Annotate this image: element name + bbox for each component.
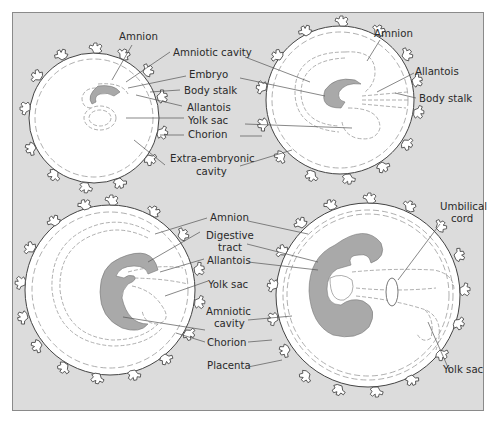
stage-4-sac	[266, 193, 470, 397]
label-embryo: Embryo	[189, 69, 228, 80]
label-amnion: Amnion	[210, 212, 249, 223]
label-digestive-tract-2: tract	[218, 242, 242, 253]
stage-3-labels: Amnion Digestive tract Allantois Yolk sa…	[206, 212, 254, 371]
label-allantois: Allantois	[207, 255, 251, 266]
label-amnion: Amnion	[119, 31, 158, 42]
embryo-development-diagram: Amnion Amniotic cavity Embryo Body stalk…	[0, 0, 496, 424]
label-extra-embryonic-cavity: cavity	[196, 166, 227, 177]
stage-2-sac	[255, 16, 424, 185]
label-umbilical-cord-2: cord	[451, 213, 473, 224]
label-placenta: Placenta	[207, 360, 251, 371]
label-yolk-sac: Yolk sac	[207, 279, 248, 290]
label-digestive-tract: Digestive	[206, 230, 254, 241]
label-amniotic-cavity-2: cavity	[214, 318, 245, 329]
umbilical-ring	[386, 278, 398, 306]
label-yolk-sac: Yolk sac	[442, 364, 483, 375]
label-allantois: Allantois	[415, 66, 459, 77]
label-allantois: Allantois	[187, 102, 231, 113]
label-amnion: Amnion	[374, 28, 413, 39]
label-amniotic-cavity: Amniotic	[206, 306, 251, 317]
label-body-stalk: Body stalk	[184, 85, 237, 96]
label-chorion: Chorion	[207, 337, 247, 348]
label-chorion: Chorion	[188, 129, 228, 140]
label-amniotic-cavity: Amniotic cavity	[173, 47, 252, 58]
label-extra-embryonic: Extra-embryonic	[170, 153, 255, 164]
label-umbilical-cord: Umbilical	[440, 201, 487, 212]
stage-3-sac	[15, 195, 206, 385]
label-body-stalk: Body stalk	[419, 93, 472, 104]
label-yolk-sac: Yolk sac	[187, 115, 228, 126]
